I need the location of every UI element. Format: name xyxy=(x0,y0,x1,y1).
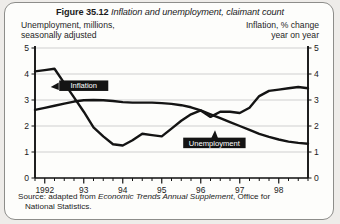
left-tick-label: 1 xyxy=(24,147,29,157)
x-major-ticks xyxy=(45,178,279,184)
right-tick-label: 2 xyxy=(314,121,319,131)
unemployment-line xyxy=(35,100,308,144)
source-prefix: Source: adapted from xyxy=(18,192,98,201)
figure-panel: Figure 35.12 Inflation and unemployment,… xyxy=(0,0,340,224)
left-tick-label: 2 xyxy=(24,121,29,131)
left-tick-label: 0 xyxy=(24,173,29,183)
inflation-line xyxy=(35,69,308,146)
source-publication: Economic Trends Annual Supplement xyxy=(98,192,233,201)
callout-arrow-left xyxy=(51,83,59,91)
source-line2: National Statistics. xyxy=(18,202,328,212)
y-tick-labels-left: 012345 xyxy=(24,43,29,183)
callout-unemployment: Unemployment xyxy=(183,130,245,148)
callout-label: Inflation xyxy=(70,81,97,90)
right-tick-label: 3 xyxy=(314,95,319,105)
plot-area: 012345 012345 1992939495969798 Inflation… xyxy=(5,3,334,220)
callout-label: Unemployment xyxy=(189,139,241,148)
figure-card: Figure 35.12 Inflation and unemployment,… xyxy=(4,2,334,220)
chart-svg: 012345 012345 1992939495969798 Inflation… xyxy=(5,3,334,220)
callout-inflation: Inflation xyxy=(51,80,109,91)
gridlines xyxy=(35,48,308,178)
left-tick-label: 3 xyxy=(24,95,29,105)
right-tick-label: 0 xyxy=(314,173,319,183)
y-tick-labels-right: 012345 xyxy=(314,43,319,183)
left-tick-label: 4 xyxy=(24,69,29,79)
callout-arrow-up xyxy=(211,130,218,138)
source-note: Source: adapted from Economic Trends Ann… xyxy=(18,192,328,213)
left-tick-label: 5 xyxy=(24,43,29,53)
right-tick-label: 4 xyxy=(314,69,319,79)
source-suffix: , Office for xyxy=(233,192,270,201)
right-tick-label: 5 xyxy=(314,43,319,53)
right-tick-label: 1 xyxy=(314,147,319,157)
